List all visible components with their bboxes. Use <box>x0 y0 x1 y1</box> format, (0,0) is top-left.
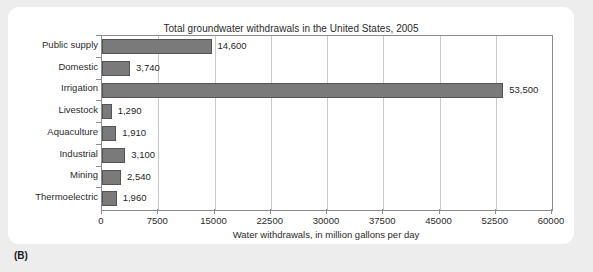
bar[interactable] <box>102 83 503 98</box>
x-axis-tick-mark <box>101 209 102 214</box>
y-axis-tick-label: Irrigation <box>12 82 98 93</box>
y-axis-tick-label: Public supply <box>12 39 98 50</box>
x-axis-tick-mark <box>551 209 552 214</box>
bar-row: 1,290 <box>102 101 552 123</box>
bar-value-label: 3,740 <box>136 60 160 76</box>
plot-area: 14,6003,74053,5001,2901,9103,1002,5401,9… <box>101 35 553 211</box>
x-axis-tick-mark <box>439 209 440 214</box>
y-axis-tick-label: Industrial <box>12 148 98 159</box>
bar-value-label: 14,600 <box>218 38 247 54</box>
bar-row: 1,910 <box>102 123 552 145</box>
y-axis-tick-label: Domestic <box>12 61 98 72</box>
x-axis-tick-label: 0 <box>98 215 103 226</box>
y-axis-tick-label: Livestock <box>12 104 98 115</box>
bar-row: 1,960 <box>102 188 552 210</box>
bar-value-label: 1,290 <box>118 103 142 119</box>
bar-value-label: 1,910 <box>122 125 146 141</box>
x-axis-tick-mark <box>157 209 158 214</box>
bar-row: 14,600 <box>102 36 552 58</box>
x-axis-tick-mark <box>214 209 215 214</box>
y-axis-tick-label: Mining <box>12 169 98 180</box>
x-axis-tick-label: 30000 <box>313 215 339 226</box>
x-axis-tick-mark <box>270 209 271 214</box>
x-axis-tick-label: 37500 <box>369 215 395 226</box>
x-axis-tick-mark <box>326 209 327 214</box>
bar-row: 2,540 <box>102 167 552 189</box>
x-axis-tick-label: 22500 <box>257 215 283 226</box>
chart-title: Total groundwater withdrawals in the Uni… <box>8 23 574 34</box>
x-axis-tick-label: 60000 <box>538 215 564 226</box>
bar-value-label: 3,100 <box>131 147 155 163</box>
bar-row: 3,740 <box>102 58 552 80</box>
y-axis-tick-label: Thermoelectric <box>12 191 98 202</box>
y-axis-labels: Public supplyDomesticIrrigationLivestock… <box>8 35 98 209</box>
bar[interactable] <box>102 170 121 185</box>
x-axis-tick-label: 45000 <box>425 215 451 226</box>
bar[interactable] <box>102 61 130 76</box>
chart-page: Total groundwater withdrawals in the Uni… <box>0 0 593 272</box>
x-axis-tick-label: 52500 <box>482 215 508 226</box>
x-axis-tick-label: 15000 <box>200 215 226 226</box>
bar-value-label: 1,960 <box>123 190 147 206</box>
x-axis-tick-mark <box>495 209 496 214</box>
bar-row: 3,100 <box>102 145 552 167</box>
bar[interactable] <box>102 126 116 141</box>
bar[interactable] <box>102 148 125 163</box>
panel-letter: (B) <box>14 250 28 261</box>
y-axis-tick-label: Aquaculture <box>12 126 98 137</box>
bar[interactable] <box>102 191 117 206</box>
x-axis-tick-mark <box>382 209 383 214</box>
bar-value-label: 2,540 <box>127 169 151 185</box>
bar[interactable] <box>102 39 212 54</box>
bar[interactable] <box>102 104 112 119</box>
chart-card: Total groundwater withdrawals in the Uni… <box>8 7 574 244</box>
bar-row: 53,500 <box>102 80 552 102</box>
x-axis-title: Water withdrawals, in million gallons pe… <box>101 229 551 240</box>
bar-value-label: 53,500 <box>509 82 538 98</box>
x-axis-tick-label: 7500 <box>147 215 168 226</box>
